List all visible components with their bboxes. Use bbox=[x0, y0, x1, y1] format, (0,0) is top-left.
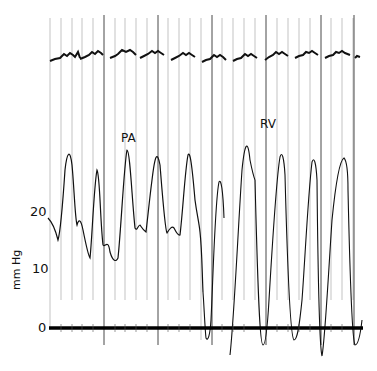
pa-pressure-trace bbox=[48, 150, 203, 292]
tick-label-20: 20 bbox=[30, 204, 47, 219]
ecg-trace bbox=[50, 50, 360, 62]
rv-pressure-trace bbox=[203, 146, 362, 356]
rv-annotation: RV bbox=[260, 117, 276, 131]
tick-label-0: 0 bbox=[38, 320, 46, 335]
pressure-tracing-chart bbox=[0, 0, 377, 371]
y-axis-label: mm Hg bbox=[10, 250, 23, 290]
pa-annotation: PA bbox=[121, 131, 136, 145]
tick-label-10: 10 bbox=[32, 261, 49, 276]
